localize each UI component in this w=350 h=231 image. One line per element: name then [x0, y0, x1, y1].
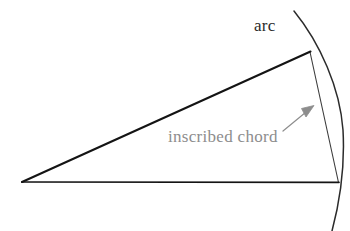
diagram-canvas [0, 0, 350, 231]
figure-background [0, 0, 350, 231]
geometry-figure: arc inscribed chord [0, 0, 350, 231]
arc-label: arc [254, 17, 276, 34]
inscribed-chord-label: inscribed chord [168, 128, 278, 145]
